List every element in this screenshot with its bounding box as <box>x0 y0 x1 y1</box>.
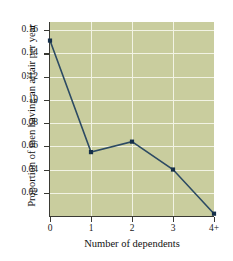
x-axis-tick <box>91 217 92 222</box>
y-axis-line <box>49 22 50 217</box>
y-axis-tick <box>44 193 49 194</box>
x-axis-tick-label: 4+ <box>199 224 229 234</box>
x-axis-tick <box>214 217 215 222</box>
x-axis-title: Number of dependents <box>40 238 224 249</box>
x-axis-tick <box>132 217 133 222</box>
chart-figure: 0.020.040.060.080.100.120.140.1601234+ P… <box>0 0 233 261</box>
gridline-vertical <box>91 22 92 216</box>
x-axis-tick <box>173 217 174 222</box>
y-axis-tick <box>44 77 49 78</box>
gridline-vertical <box>132 22 133 216</box>
y-axis-title: Proportion of men having an affair per y… <box>26 16 37 216</box>
x-axis-tick-label: 1 <box>76 224 106 234</box>
y-axis-tick <box>44 53 49 54</box>
gridline-vertical <box>173 22 174 216</box>
plot-area <box>50 22 214 216</box>
y-axis-tick <box>44 146 49 147</box>
y-axis-tick <box>44 170 49 171</box>
y-axis-tick <box>44 123 49 124</box>
y-axis-tick <box>44 30 49 31</box>
x-axis-tick-label: 0 <box>35 224 65 234</box>
x-axis-tick-label: 3 <box>158 224 188 234</box>
x-axis-tick-label: 2 <box>117 224 147 234</box>
y-axis-tick <box>44 100 49 101</box>
x-axis-tick <box>50 217 51 222</box>
